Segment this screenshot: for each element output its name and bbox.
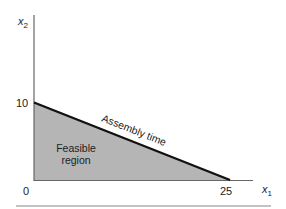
feasible-region-label: Feasible: [56, 142, 96, 154]
feasible-region-label-2: region: [61, 154, 90, 166]
x-tick-25: 25: [220, 185, 232, 197]
y-axis-label: x2: [17, 15, 29, 30]
chart: x2 x1 0 10 25 Assembly time Feasible reg…: [0, 0, 286, 209]
chart-svg: x2 x1 0 10 25 Assembly time Feasible reg…: [0, 0, 286, 209]
origin-label: 0: [23, 185, 29, 197]
x-axis-label: x1: [261, 183, 273, 198]
y-tick-10: 10: [16, 97, 28, 109]
